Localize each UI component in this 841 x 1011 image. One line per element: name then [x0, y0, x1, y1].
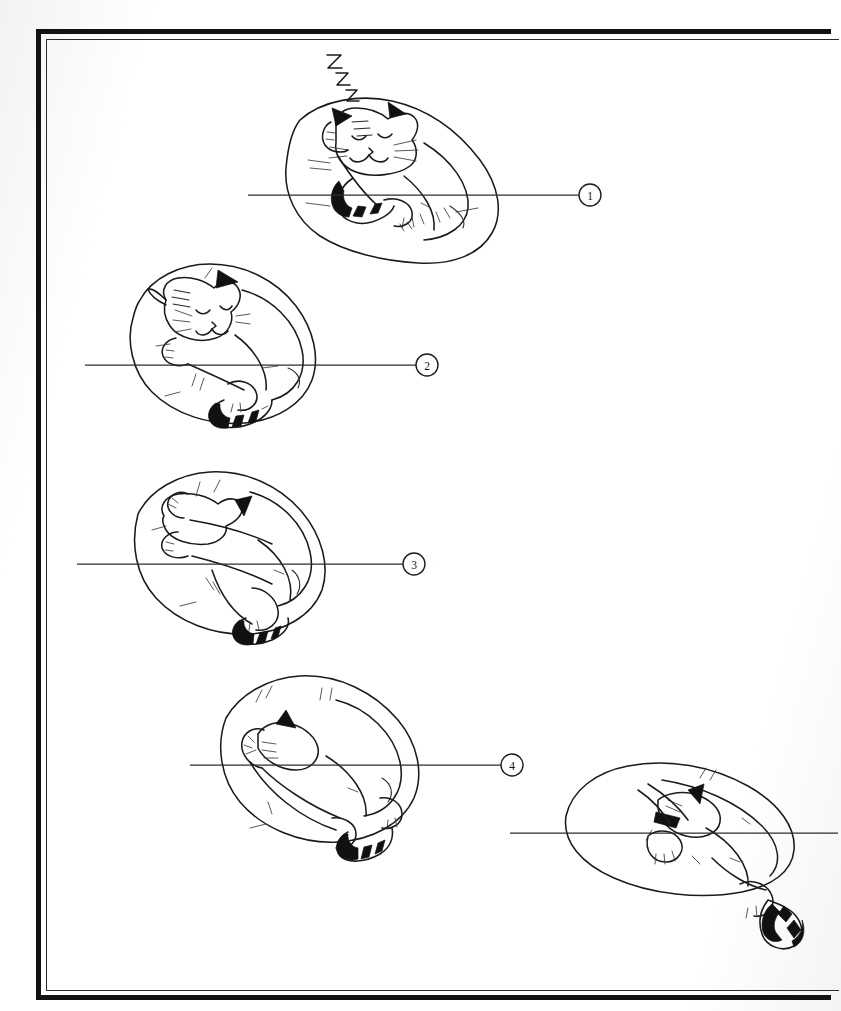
illustration-page: 1 2 3 4	[0, 0, 841, 1011]
cat-4-head	[258, 722, 318, 770]
callouts: 1 2 3 4	[77, 184, 838, 833]
cat-stage-5	[565, 763, 803, 949]
cat-sequence-illustration: 1 2 3 4	[0, 0, 841, 1011]
cat-1-hind-paw	[384, 199, 412, 227]
callout-4-label: 4	[509, 760, 515, 772]
cat-3-hind-leg	[212, 570, 252, 624]
cat-5-flank	[706, 828, 748, 886]
cat-stage-3	[135, 472, 325, 645]
cat-2-back-curl	[242, 290, 303, 400]
cat-5-hind-leg	[712, 858, 766, 890]
cat-3-ear	[235, 496, 252, 516]
cat-3-body-outline	[135, 472, 325, 634]
cat-3-head	[162, 493, 242, 544]
cat-stage-1	[286, 55, 499, 263]
zzz-sleep-marks	[327, 55, 359, 101]
cat-4-body-outline	[221, 676, 419, 842]
cat-3-front-paw-lower	[162, 532, 188, 558]
cat-2-muzzle	[212, 322, 216, 329]
callout-2-label: 2	[424, 360, 430, 372]
cat-2-eye-left	[196, 310, 210, 314]
cat-1-muzzle	[369, 148, 373, 155]
cat-1-body-outline	[286, 98, 499, 263]
cat-4-front-paw	[242, 729, 264, 768]
cat-2-ear	[216, 270, 238, 288]
cat-2-eye-right	[220, 306, 232, 310]
cat-1-eye-right	[378, 134, 392, 138]
cat-2-body-outline	[130, 264, 315, 423]
cat-1-eye-left	[352, 136, 366, 140]
cat-4-ear	[276, 710, 296, 728]
cat-stage-2	[130, 264, 315, 428]
callout-3-label: 3	[411, 559, 417, 571]
cat-1-haunch	[424, 143, 468, 240]
callout-1-label: 1	[587, 190, 593, 202]
cat-2-front-paw	[162, 338, 188, 366]
cat-stage-4	[221, 676, 419, 861]
